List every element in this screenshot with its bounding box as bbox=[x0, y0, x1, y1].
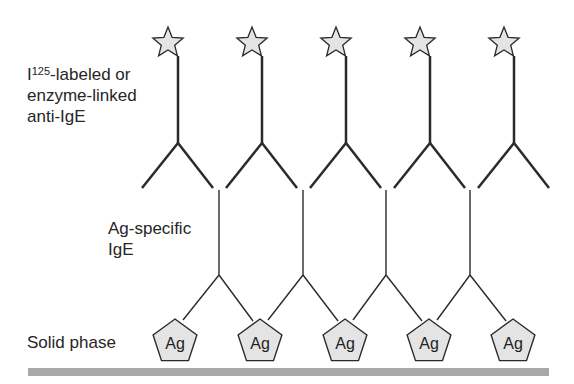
antigen-pentagon: Ag bbox=[153, 319, 197, 361]
antigen-pentagon: Ag bbox=[491, 319, 535, 361]
antigen-label: Ag bbox=[335, 335, 355, 352]
star-label-icon bbox=[321, 27, 351, 56]
antigen-label: Ag bbox=[503, 335, 523, 352]
ige-antibody bbox=[183, 190, 253, 321]
anti-ige-antibody bbox=[478, 27, 549, 188]
antigen-label: Ag bbox=[165, 335, 185, 352]
antigen-pentagon: Ag bbox=[407, 319, 451, 361]
antigen-label: Ag bbox=[419, 335, 439, 352]
antigen-pentagon: Ag bbox=[238, 319, 282, 361]
ige-antibody bbox=[437, 190, 506, 321]
antigen-pentagon: Ag bbox=[323, 319, 367, 361]
anti-ige-antibody bbox=[226, 27, 297, 188]
solid-phase-bar bbox=[28, 368, 549, 376]
ige-antibody bbox=[268, 190, 338, 321]
anti-ige-antibody bbox=[142, 27, 213, 188]
star-label-icon bbox=[237, 27, 267, 56]
immunoassay-diagram: AgAgAgAgAg bbox=[0, 0, 574, 384]
star-label-icon bbox=[405, 27, 435, 56]
star-label-icon bbox=[153, 27, 183, 56]
antigen-label: Ag bbox=[250, 335, 270, 352]
anti-ige-antibody bbox=[394, 27, 465, 188]
anti-ige-antibody bbox=[310, 27, 381, 188]
star-label-icon bbox=[489, 27, 519, 56]
ige-antibody bbox=[353, 190, 422, 321]
